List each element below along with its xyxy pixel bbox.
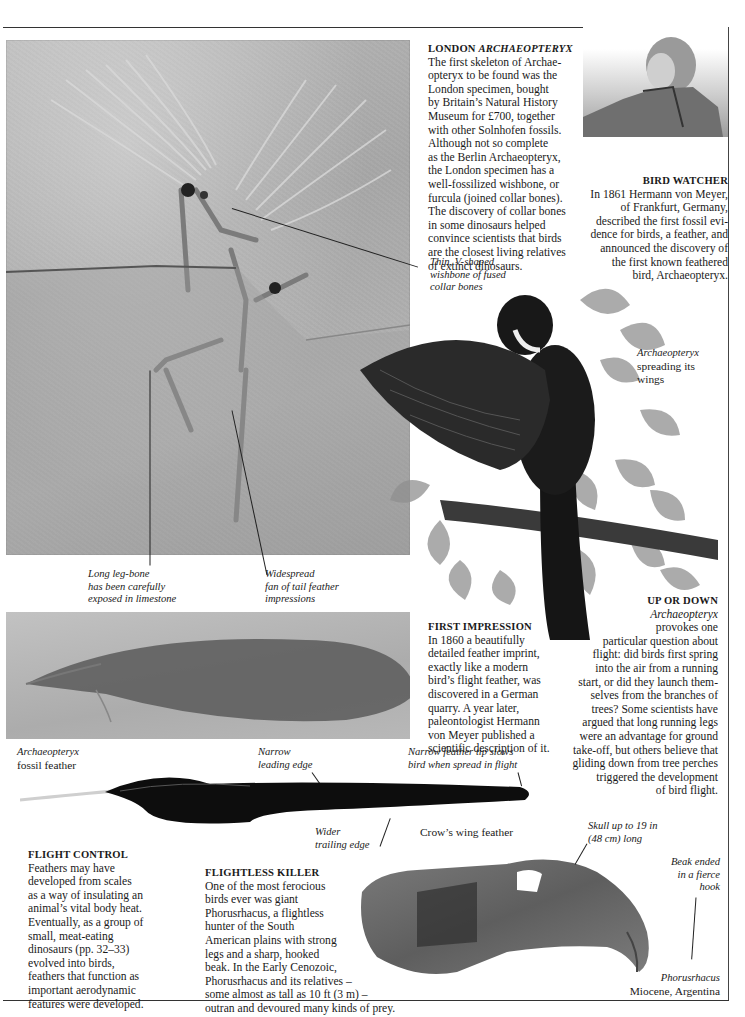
text-line: detailed feather imprint, [428,647,568,661]
caption-line: Skull up to 19 in [588,820,708,833]
caption-line: Widespread [265,568,405,581]
text-line: were an advantage for ground [568,730,718,744]
text-line: Eventually, as a group of [28,916,188,930]
text-line: The discovery of collar bones [428,205,588,219]
archaeopteryx-model-image [350,270,720,650]
text-line: well-fossilized wishbone, or [428,178,588,192]
text-line: start, or did they launch them- [568,676,718,690]
beak-caption: Beak ended in a fierce hook [650,856,720,894]
caption-line: Archaeopteryx [637,347,737,360]
text-line: dinosaurs (pp. 32–33) [28,943,188,957]
text-line: selves from the branches of [568,689,718,703]
up-or-down-heading: UP OR DOWN [568,594,718,608]
bird-watcher-heading: BIRD WATCHER [582,174,728,188]
text-line: convince scientists that birds [428,232,588,246]
text-line: of Frankfurt, Germany, [582,201,728,215]
archaeopteryx-bird-icon [350,270,720,650]
text-line: as a way of insulating an [28,889,188,903]
text-line: dence for birds, a feather, and [582,228,728,242]
london-archaeopteryx-heading: LONDON ARCHAEOPTERYX [428,42,588,56]
text-line: quarry. A year later, [428,702,568,716]
text-line: developed from scales [28,875,188,889]
text-line: some almost as tall as 10 ft (3 m) – [205,988,405,1002]
page-right-rule [728,27,729,1001]
text-line: bird’s flight feather, was [428,674,568,688]
text-line: argued that long running legs [568,716,718,730]
fossil-feather-image [6,612,410,739]
london-archaeopteryx-section: LONDON ARCHAEOPTERYX The first skeleton … [428,42,588,273]
text-line: London specimen, bought [428,83,588,97]
caption-line: in a fierce [650,869,720,882]
leg-bone-leader-line [150,371,151,566]
fossil-feather-icon [6,612,410,739]
text-line: outran and devoured many kinds of prey. [205,1002,405,1016]
caption-line: Archaeopteryx [17,746,137,759]
text-line: discovered in a German [428,688,568,702]
caption-line: Phorusrhacus [580,972,720,985]
caption-line: exposed in limestone [88,593,228,606]
caption-line: hook [650,881,720,894]
caption-line: Wider [315,826,415,839]
text-line: by Britain’s Natural History [428,96,588,110]
text-line: exactly like a modern [428,661,568,675]
text-line: gliding down from tree perches [568,757,718,771]
first-impression-heading: FIRST IMPRESSION [428,620,568,634]
text-line: important aerodynamic [28,984,188,998]
caption-line: Long leg-bone [88,568,228,581]
text-line: trees? Some scientists have [568,703,718,717]
caption-line: impressions [265,593,405,606]
text-line: flight: did birds first spring [568,648,718,662]
caption-line: Thin, V-shaped [430,256,550,269]
crow-wing-feather-image [20,760,530,830]
text-line: as the Berlin Archaeopteryx, [428,151,588,165]
caption-line: wings [637,373,737,386]
text-line: the first known feathered [582,256,728,270]
text-line: announced the discovery of [582,242,728,256]
tail-feather-caption: Widespread fan of tail feather impressio… [265,568,405,606]
crow-feather-icon [20,760,530,830]
text-line: particular question about [568,635,718,649]
text-line: Although not so complete [428,137,588,151]
text-line: In 1860 a beautifully [428,634,568,648]
text-line: triggered the development [568,771,718,785]
text-line: von Meyer published a [428,729,568,743]
flight-control-section: FLIGHT CONTROL Feathers may have develop… [28,848,188,1011]
text-line: of bird flight. [568,784,718,798]
text-line: in some dinosaurs helped [428,219,588,233]
text-line: feathers that function as [28,970,188,984]
text-line: furcula (joined collar bones). [428,192,588,206]
leg-bone-caption: Long leg-bone has been carefully exposed… [88,568,228,606]
phorusrhacus-caption: Phorusrhacus Miocene, Argentina [580,972,720,998]
text-line: features were developed. [28,998,188,1012]
caption-line: Narrow [258,746,358,759]
text-line: small, meat-eating [28,930,188,944]
text-line: Feathers may have [28,862,188,876]
text-line: In 1861 Hermann von Meyer, [582,188,728,202]
text-line: evolved into birds, [28,957,188,971]
text-line: Archaeopteryx [650,608,718,621]
phorusrhacus-skull-image [357,852,657,987]
text-line: the London specimen has a [428,164,588,178]
caption-line: spreading its [637,360,737,373]
caption-line: fan of tail feather [265,581,405,594]
text-line: with other Solnhofen fossils. [428,124,588,138]
up-or-down-section: UP OR DOWN Archaeopteryx provokes one pa… [568,594,718,798]
portrait-sketch-icon [583,27,728,137]
phorusrhacus-skull-icon [357,852,657,987]
caption-line: trailing edge [315,839,415,852]
caption-line: has been carefully [88,581,228,594]
text-line: into the air from a running [568,662,718,676]
caption-line: Beak ended [650,856,720,869]
crow-feather-caption: Crow’s wing feather [420,826,540,839]
skull-caption: Skull up to 19 in (48 cm) long [588,820,708,845]
text-line: take-off, but others believe that [568,744,718,758]
hermann-von-meyer-portrait [583,27,728,137]
first-impression-section: FIRST IMPRESSION In 1860 a beautifully d… [428,620,568,756]
caption-line: Narrow feather tip slows [408,746,558,759]
flight-control-heading: FLIGHT CONTROL [28,848,188,862]
text-line: opteryx to be found was the [428,69,588,83]
bird-watcher-section: BIRD WATCHER In 1861 Hermann von Meyer, … [582,174,728,283]
beak-leader-line [691,897,696,959]
text-line: described the first fossil evi- [582,215,728,229]
text-line: animal’s vital body heat. [28,902,188,916]
